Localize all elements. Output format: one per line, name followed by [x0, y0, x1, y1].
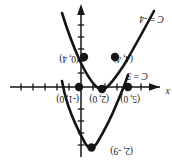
label-curve-cneg4: C = -4 — [140, 14, 164, 24]
graph-figure: (2, -9) (5, 0) (2, 0) (-1, 0) C = 5 (4, … — [0, 0, 172, 161]
point-2-neg9 — [87, 143, 95, 151]
point-neg1-0 — [75, 83, 83, 91]
label-vertex-2-neg9: (2, -9) — [111, 146, 133, 156]
label-vertex-2-0: (2, 0) — [90, 94, 109, 104]
x-axis-label: x — [166, 87, 170, 97]
label-curve-c5: C = 5 — [127, 71, 148, 81]
point-2-0 — [98, 85, 106, 93]
label-point-4-4: (4, 4) — [114, 54, 133, 64]
point-5-0 — [124, 83, 132, 91]
x-axis — [10, 83, 160, 91]
label-intercept-5-0: (5, 0) — [121, 94, 140, 104]
point-0-4 — [80, 53, 88, 61]
label-point-0-4: (0, 4) — [60, 54, 79, 64]
label-intercept-neg1-0: (-1, 0) — [57, 94, 79, 104]
